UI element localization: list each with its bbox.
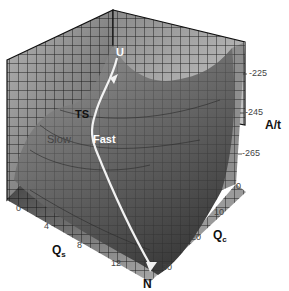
label-native: N <box>143 277 152 291</box>
label-transition-state: TS <box>75 108 89 120</box>
surface-plot <box>0 0 289 291</box>
x-axis-title: Qs <box>52 243 66 259</box>
x-tick-3: 12 <box>111 258 121 268</box>
y-tick-1: 10 <box>214 207 224 217</box>
y-tick-2: 20 <box>191 232 201 242</box>
y-tick-3: 30 <box>162 262 172 272</box>
z-tick-2: -265 <box>242 148 260 158</box>
x-tick-0: 0 <box>16 203 21 213</box>
label-fast-path: Fast <box>93 133 116 145</box>
label-slow-path: Slow <box>47 133 71 145</box>
y-tick-0: 0 <box>236 181 241 191</box>
z-tick-0: -225 <box>249 68 267 78</box>
y-axis-title: Qc <box>213 228 227 244</box>
z-tick-1: -245 <box>245 107 263 117</box>
x-tick-1: 4 <box>44 221 49 231</box>
label-unfolded: U <box>116 46 124 58</box>
z-axis-title: A/t <box>265 118 281 132</box>
x-tick-2: 8 <box>77 240 82 250</box>
